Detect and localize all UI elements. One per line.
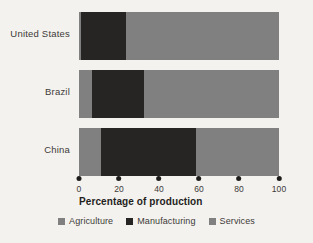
x-axis-tick-label: 40 xyxy=(154,184,164,194)
bar-segment-manufacturing xyxy=(101,128,196,176)
x-axis-tick-dot xyxy=(77,176,82,181)
legend-label: Manufacturing xyxy=(137,216,195,226)
category-label-brazil: Brazil xyxy=(0,86,70,97)
legend-item-manufacturing[interactable]: Manufacturing xyxy=(126,216,195,226)
legend-item-agriculture[interactable]: Agriculture xyxy=(58,216,113,226)
bar-brazil xyxy=(79,70,279,118)
x-axis-tick: 100 xyxy=(272,176,286,194)
legend-swatch xyxy=(209,218,216,225)
x-axis-tick: 40 xyxy=(154,176,164,194)
x-axis-tick-label: 100 xyxy=(272,184,286,194)
bar-segment-services xyxy=(126,12,279,60)
x-axis-tick-dot xyxy=(237,176,242,181)
bar-segment-agriculture xyxy=(79,70,92,118)
category-label-united-states: United States xyxy=(0,28,70,39)
x-axis-tick-dot xyxy=(276,176,281,181)
category-label-china: China xyxy=(0,144,70,155)
legend-swatch xyxy=(58,218,65,225)
x-axis-tick-label: 80 xyxy=(234,184,244,194)
stacked-bar-chart: United States Brazil China 020406080100 … xyxy=(0,0,313,243)
x-axis: 020406080100 xyxy=(79,176,279,198)
x-axis-tick-label: 20 xyxy=(114,184,124,194)
x-axis-tick: 60 xyxy=(194,176,204,194)
x-axis-tick-dot xyxy=(197,176,202,181)
legend: AgricultureManufacturingServices xyxy=(0,216,313,226)
bar-china xyxy=(79,128,279,176)
x-axis-tick-label: 60 xyxy=(194,184,204,194)
bar-segment-agriculture xyxy=(79,128,101,176)
x-axis-tick-label: 0 xyxy=(77,184,82,194)
bar-united-states xyxy=(79,12,279,60)
legend-swatch xyxy=(126,218,133,225)
bar-segment-services xyxy=(196,128,279,176)
x-axis-title: Percentage of production xyxy=(79,196,203,207)
x-axis-tick-dot xyxy=(157,176,162,181)
bar-segment-manufacturing xyxy=(81,12,126,60)
bar-segment-manufacturing xyxy=(92,70,144,118)
x-axis-tick: 80 xyxy=(234,176,244,194)
x-axis-tick-dot xyxy=(117,176,122,181)
bar-segment-services xyxy=(144,70,279,118)
plot-area xyxy=(79,10,279,175)
x-axis-tick: 0 xyxy=(77,176,82,194)
legend-item-services[interactable]: Services xyxy=(209,216,255,226)
legend-label: Agriculture xyxy=(69,216,113,226)
x-axis-tick: 20 xyxy=(114,176,124,194)
legend-label: Services xyxy=(220,216,255,226)
